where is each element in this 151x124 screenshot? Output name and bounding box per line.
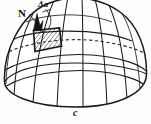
bottom-label: c (73, 108, 77, 118)
pole-label: N (18, 8, 26, 19)
figure-container: N Δa c (0, 0, 151, 124)
area-element-label: Δa (38, 0, 48, 9)
